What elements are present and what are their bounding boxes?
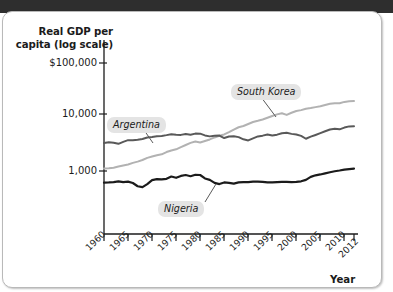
chart-figure: Real GDP per capita (log scale) $100,000…	[3, 12, 381, 287]
figure-card: Real GDP per capita (log scale) $100,000…	[2, 11, 382, 288]
x-axis-title: Year	[330, 274, 355, 285]
series-callout-south-korea: South Korea	[231, 84, 301, 100]
series-callout-nigeria: Nigeria	[158, 201, 204, 217]
series-callout-argentina: Argentina	[107, 117, 166, 133]
y-tick-marks	[99, 63, 107, 171]
callout-leader-south-korea	[261, 97, 276, 117]
series-line-nigeria	[104, 169, 354, 188]
callout-leader-nigeria	[205, 184, 216, 202]
figure-root: Real GDP per capita (log scale) $100,000…	[0, 0, 393, 292]
